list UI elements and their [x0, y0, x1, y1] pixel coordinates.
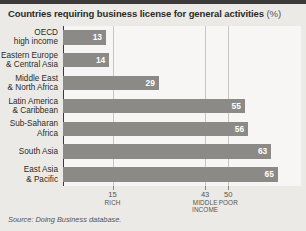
bar[interactable] — [63, 144, 271, 158]
x-tick-group: 50POOR — [198, 190, 258, 206]
bar-value-label: 29 — [146, 76, 155, 90]
x-tick-value: 50 — [198, 190, 258, 199]
bar-value-label: 65 — [265, 167, 274, 181]
bar-value-label: 55 — [231, 99, 240, 113]
category-label: Sub-SaharanAfrica — [0, 117, 58, 140]
bar-row: Sub-SaharanAfrica56 — [0, 117, 306, 140]
bar-row: Middle East& North Africa29 — [0, 72, 306, 95]
bar-wrapper: 63 — [63, 144, 271, 158]
chart-title-main: Countries requiring business license for… — [8, 8, 264, 19]
bar-value-label: 13 — [93, 30, 102, 44]
bar-row: OECDhigh income13 — [0, 26, 306, 49]
category-label: Eastern Europe& Central Asia — [0, 49, 58, 72]
category-label: East Asia& Pacific — [0, 163, 58, 186]
category-label: Middle East& North Africa — [0, 72, 58, 95]
bar-wrapper: 29 — [63, 76, 159, 90]
bar[interactable] — [63, 122, 248, 136]
bar-row: Latin America& Caribbean55 — [0, 95, 306, 118]
chart-title: Countries requiring business license for… — [8, 8, 302, 19]
x-tick-group: 15RICH — [83, 190, 143, 206]
x-tick-value: 15 — [83, 190, 143, 199]
category-label: South Asia — [0, 140, 58, 163]
x-tick-note: POOR — [198, 199, 258, 206]
bar-row: South Asia63 — [0, 140, 306, 163]
bar-wrapper: 13 — [63, 30, 106, 44]
category-label: Latin America& Caribbean — [0, 95, 58, 118]
bar-row: Eastern Europe& Central Asia14 — [0, 49, 306, 72]
chart-title-unit: (%) — [267, 8, 281, 19]
bar-value-label: 63 — [258, 144, 267, 158]
x-tick-note: RICH — [83, 199, 143, 206]
chart-figure: Countries requiring business license for… — [0, 0, 306, 231]
bar[interactable] — [63, 167, 278, 181]
x-axis: 15RICH43MIDDLEINCOME50POOR — [0, 186, 306, 212]
bar-wrapper: 56 — [63, 122, 248, 136]
plot-area: OECDhigh income13Eastern Europe& Central… — [0, 26, 306, 186]
bar[interactable] — [63, 76, 159, 90]
x-tick-note: INCOME — [175, 206, 235, 213]
bar[interactable] — [63, 99, 245, 113]
category-label: OECDhigh income — [0, 26, 58, 49]
source-note: Source: Doing Business database. — [8, 215, 121, 224]
bar-row: East Asia& Pacific65 — [0, 163, 306, 186]
bar-wrapper: 14 — [63, 53, 109, 67]
top-rule — [0, 0, 306, 4]
bar-wrapper: 65 — [63, 167, 278, 181]
bar-wrapper: 55 — [63, 99, 245, 113]
bar-value-label: 14 — [96, 53, 105, 67]
bar-value-label: 56 — [235, 122, 244, 136]
